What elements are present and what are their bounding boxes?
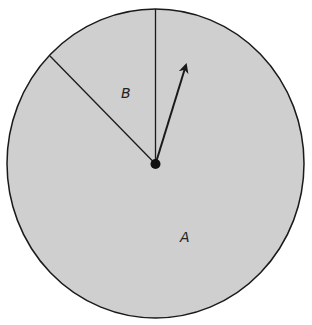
spinner-diagram: B A bbox=[0, 0, 312, 325]
region-label-a: A bbox=[179, 229, 190, 245]
center-dot bbox=[151, 159, 161, 169]
region-label-b: B bbox=[121, 85, 131, 101]
